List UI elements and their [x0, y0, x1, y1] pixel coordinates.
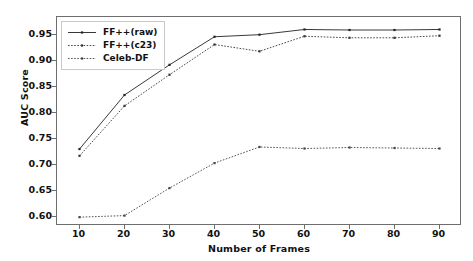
data-point	[303, 28, 305, 30]
x-tick-label: 30	[154, 229, 184, 239]
x-tick-label: 70	[334, 229, 364, 239]
y-axis-label: AUC Score	[19, 58, 30, 138]
x-tick-label: 10	[64, 229, 94, 239]
data-point	[438, 147, 440, 149]
data-point	[258, 34, 260, 36]
x-tick-label: 90	[424, 229, 454, 239]
data-point	[348, 37, 350, 39]
legend-item: Celeb-DF	[67, 52, 157, 65]
data-point	[258, 50, 260, 52]
data-point	[438, 35, 440, 37]
data-point	[348, 146, 350, 148]
data-point	[393, 29, 395, 31]
chart-figure: AUC Score 0.600.650.700.750.800.850.900.…	[0, 0, 473, 261]
data-point	[213, 162, 215, 164]
x-tick-mark	[124, 225, 125, 229]
data-point	[348, 29, 350, 31]
y-tick-label: 0.80	[8, 107, 52, 117]
data-point	[168, 187, 170, 189]
data-point	[258, 146, 260, 148]
x-tick-mark	[349, 225, 350, 229]
data-point	[393, 37, 395, 39]
y-tick-label: 0.90	[8, 55, 52, 65]
legend-line-sample	[67, 53, 97, 64]
y-tick-label: 0.85	[8, 81, 52, 91]
legend-line-sample	[67, 40, 97, 51]
x-tick-label: 60	[289, 229, 319, 239]
x-tick-label: 40	[199, 229, 229, 239]
x-tick-mark	[394, 225, 395, 229]
x-tick-label: 20	[109, 229, 139, 239]
data-point	[393, 147, 395, 149]
figure-caption	[0, 253, 473, 261]
x-tick-label: 50	[244, 229, 274, 239]
data-point	[213, 36, 215, 38]
data-point	[78, 216, 80, 218]
legend-item: FF++(raw)	[67, 26, 157, 39]
x-tick-mark	[79, 225, 80, 229]
legend: FF++(raw)FF++(c23)Celeb-DF	[61, 21, 165, 70]
x-tick-mark	[214, 225, 215, 229]
y-tick-label: 0.75	[8, 133, 52, 143]
series-line	[80, 147, 440, 217]
x-tick-label: 80	[379, 229, 409, 239]
data-point	[123, 94, 125, 96]
data-point	[303, 35, 305, 37]
data-point	[78, 148, 80, 150]
legend-label: FF++(raw)	[103, 28, 157, 37]
data-point	[168, 64, 170, 66]
legend-label: FF++(c23)	[103, 41, 156, 50]
legend-item: FF++(c23)	[67, 39, 157, 52]
series-celeb-df	[78, 146, 440, 218]
y-tick-label: 0.60	[8, 211, 52, 221]
data-point	[213, 43, 215, 45]
data-point	[438, 28, 440, 30]
data-point	[123, 215, 125, 217]
y-tick-label: 0.65	[8, 185, 52, 195]
data-point	[303, 147, 305, 149]
x-tick-mark	[169, 225, 170, 229]
data-point	[168, 74, 170, 76]
x-tick-mark	[259, 225, 260, 229]
data-point	[123, 105, 125, 107]
legend-label: Celeb-DF	[103, 54, 149, 63]
legend-line-sample	[67, 27, 97, 38]
y-tick-label: 0.70	[8, 159, 52, 169]
x-tick-mark	[439, 225, 440, 229]
x-tick-mark	[304, 225, 305, 229]
data-point	[78, 155, 80, 157]
y-tick-label: 0.95	[8, 29, 52, 39]
